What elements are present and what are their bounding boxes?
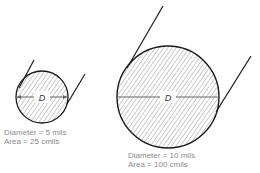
small-wire-right-edge — [67, 74, 85, 104]
large-diameter-label: D — [165, 93, 172, 103]
small-wire — [16, 60, 85, 123]
wire-cross-section-diagram: D D — [0, 0, 260, 173]
large-wire-right-edge — [216, 56, 251, 112]
large-area-text: Area = 100 cmils — [128, 160, 195, 169]
small-wire-caption: Diameter = 5 mils Area = 25 cmils — [4, 128, 66, 146]
large-wire — [117, 6, 251, 148]
small-area-text: Area = 25 cmils — [4, 137, 66, 146]
small-diameter-label: D — [39, 93, 46, 103]
small-diameter-text: Diameter = 5 mils — [4, 128, 66, 137]
large-diameter-text: Diameter = 10 mils — [128, 151, 195, 160]
large-wire-caption: Diameter = 10 mils Area = 100 cmils — [128, 151, 195, 169]
